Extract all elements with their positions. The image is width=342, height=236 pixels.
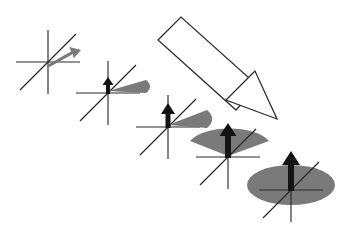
progression-arrow-group — [158, 17, 277, 119]
frame-2-group — [76, 61, 150, 125]
frame-1-group — [16, 30, 81, 94]
frame-5-group — [247, 151, 335, 222]
spin-precession-diagram — [0, 0, 342, 236]
frame-3-group — [136, 95, 212, 159]
frame-3-gray-cone — [168, 110, 212, 128]
diagram-canvas — [0, 0, 342, 236]
frame-2-black-vector — [103, 77, 114, 94]
